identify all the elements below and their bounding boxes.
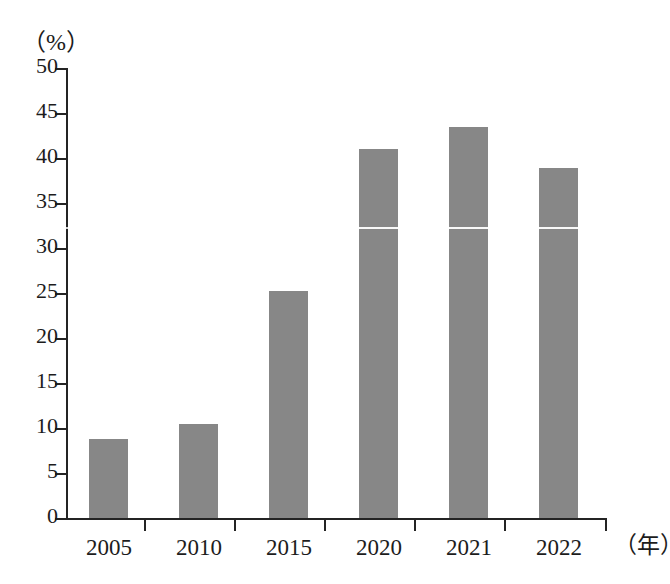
y-tick-label-20: 20	[36, 325, 58, 347]
x-tick-6	[605, 518, 607, 531]
bar-2020	[359, 149, 398, 518]
y-tick-label-5: 5	[47, 460, 58, 482]
y-tick-label-0: 0	[47, 505, 58, 527]
bar-2022	[539, 168, 578, 518]
bar-2015	[269, 291, 308, 518]
plot-area: 50 45 40 35 30 25 20 15	[66, 68, 607, 518]
y-axis-line	[66, 68, 68, 519]
x-tick-5	[504, 518, 506, 531]
y-tick-label-35: 35	[36, 190, 58, 212]
x-label-2021: 2021	[429, 536, 509, 559]
x-tick-4	[414, 518, 416, 531]
y-tick-label-30: 30	[36, 235, 58, 257]
x-label-2020: 2020	[339, 536, 419, 559]
y-tick-label-15: 15	[36, 370, 58, 392]
bar-2021	[449, 127, 488, 518]
bar-2005	[89, 439, 128, 518]
x-label-2015: 2015	[249, 536, 329, 559]
x-axis-line	[55, 518, 607, 520]
x-tick-3	[324, 518, 326, 531]
bar-chart-figure: （%） 50 45 40 35 30 25 2	[0, 0, 670, 584]
x-label-2005: 2005	[69, 536, 149, 559]
y-tick-label-45: 45	[36, 100, 58, 122]
bar-2010	[179, 424, 218, 518]
scan-artifact-line-axis	[62, 227, 71, 229]
x-label-2010: 2010	[159, 536, 239, 559]
scan-artifact-line	[358, 227, 607, 229]
y-tick-label-25: 25	[36, 280, 58, 302]
x-label-2022: 2022	[519, 536, 599, 559]
y-axis-unit-label: （%）	[22, 22, 90, 57]
y-tick-label-10: 10	[36, 415, 58, 437]
x-axis-unit-label: （年）	[614, 534, 670, 557]
x-tick-1	[144, 518, 146, 531]
y-tick-label-50: 50	[36, 55, 58, 77]
y-tick-label-40: 40	[36, 145, 58, 167]
x-tick-2	[234, 518, 236, 531]
